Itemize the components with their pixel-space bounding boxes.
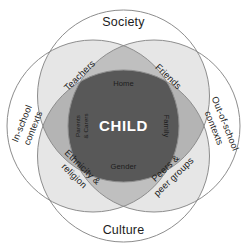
label-parents-carers: Parents & Carers bbox=[74, 113, 89, 138]
label-family: Family bbox=[162, 115, 171, 138]
label-gender: Gender bbox=[111, 162, 137, 171]
label-parents-carers-line2: & Carers bbox=[82, 113, 89, 138]
label-society: Society bbox=[102, 15, 145, 29]
label-family-text: Family bbox=[162, 115, 171, 138]
label-parents-carers-line1: Parents bbox=[74, 115, 81, 137]
venn-diagram-svg: Society Culture In-school contexts Out-o… bbox=[0, 0, 247, 251]
venn-diagram-container: Society Culture In-school contexts Out-o… bbox=[0, 0, 247, 251]
label-culture: Culture bbox=[103, 223, 145, 237]
label-child-center: CHILD bbox=[99, 117, 148, 134]
label-home: Home bbox=[113, 79, 134, 88]
